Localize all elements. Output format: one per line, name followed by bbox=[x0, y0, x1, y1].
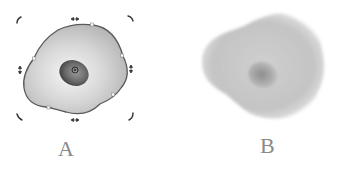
figure-canvas bbox=[0, 0, 337, 169]
rotate-handle-bottom-left-icon[interactable] bbox=[17, 114, 22, 120]
resize-handle-left-icon[interactable] bbox=[19, 66, 22, 74]
panel-a bbox=[17, 16, 133, 122]
anchor-point[interactable] bbox=[33, 57, 36, 60]
anchor-point[interactable] bbox=[112, 93, 115, 96]
panel-label-a: A bbox=[58, 136, 74, 162]
resize-handle-bottom-icon[interactable] bbox=[71, 119, 79, 122]
rotate-handle-top-right-icon[interactable] bbox=[128, 16, 133, 21]
rotate-handle-bottom-right-icon[interactable] bbox=[129, 113, 133, 120]
resize-handle-right-icon[interactable] bbox=[130, 65, 133, 73]
anchor-point[interactable] bbox=[47, 106, 50, 109]
rotate-handle-top-left-icon[interactable] bbox=[17, 17, 21, 23]
anchor-point[interactable] bbox=[121, 54, 124, 57]
panel-label-b: B bbox=[260, 133, 275, 159]
anchor-point[interactable] bbox=[91, 23, 94, 26]
panel-b bbox=[202, 13, 324, 119]
resize-handle-top-icon[interactable] bbox=[71, 18, 79, 21]
